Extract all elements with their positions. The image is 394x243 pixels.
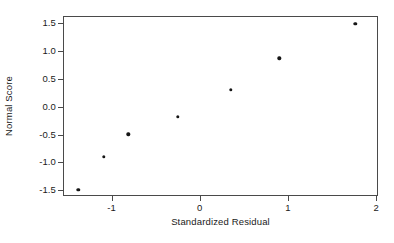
x-tick-mark (288, 196, 289, 201)
y-tick-mark (58, 79, 63, 80)
y-axis-title: Normal Score (3, 76, 14, 136)
data-point (127, 133, 130, 136)
y-tick-label: -0.5 (39, 130, 56, 140)
normal-probability-plot: 1.51.00.50.0-0.5-1.0-1.5 -1012 Standardi… (0, 0, 394, 243)
data-point (229, 88, 232, 91)
y-tick-label: 0.5 (42, 74, 56, 84)
x-tick-mark (200, 196, 201, 201)
y-tick-label: 0.0 (42, 102, 56, 112)
plot-area (63, 16, 378, 196)
data-point (353, 22, 356, 25)
data-point (76, 188, 79, 191)
y-tick-mark (58, 23, 63, 24)
x-axis-title: Standardized Residual (63, 216, 378, 227)
y-tick-mark (58, 162, 63, 163)
y-tick-mark (58, 51, 63, 52)
y-tick-label: -1.5 (39, 185, 56, 195)
x-tick-label: 0 (197, 202, 202, 213)
x-tick-mark (376, 196, 377, 201)
y-tick-label: -1.0 (39, 157, 56, 167)
y-tick-mark (58, 107, 63, 108)
x-tick-label: 2 (374, 202, 379, 213)
y-tick-label: 1.0 (42, 46, 56, 56)
x-tick-label: -1 (107, 202, 116, 213)
y-tick-mark (58, 190, 63, 191)
x-tick-mark (112, 196, 113, 201)
data-point (278, 57, 281, 60)
x-tick-label: 1 (285, 202, 290, 213)
data-point (102, 155, 105, 158)
y-tick-label: 1.5 (42, 18, 56, 28)
data-point (176, 115, 179, 118)
y-tick-mark (58, 135, 63, 136)
